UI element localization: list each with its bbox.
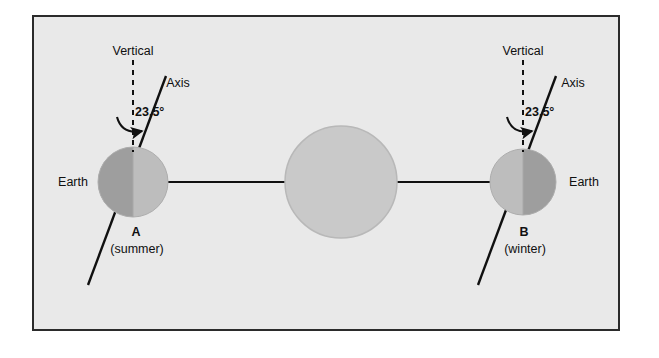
earth-b-season-label: (winter)	[504, 242, 546, 256]
earth-a-body-label: Earth	[58, 175, 88, 189]
earth-a-vertical-label: Vertical	[113, 44, 154, 58]
earth-a-angle-arrow	[117, 117, 142, 132]
earth-b-angle-arrow	[507, 117, 532, 132]
diagram-graphics	[0, 0, 659, 358]
earth-a-season-label: (summer)	[110, 242, 163, 256]
earth-b-axis-label: Axis	[561, 76, 585, 90]
earth-b-angle-label: 23.5°	[525, 105, 554, 119]
earth-a-dark-hemisphere	[96, 145, 133, 219]
earth-b-vertical-label: Vertical	[503, 44, 544, 58]
earth-a-angle-label: 23.5°	[135, 105, 164, 119]
sun-body	[285, 126, 397, 238]
earth-a-axis-label: Axis	[166, 76, 190, 90]
earth-b-body-label: Earth	[569, 175, 599, 189]
diagram-canvas: Vertical Axis 23.5° Earth A (summer) Ver…	[0, 0, 659, 358]
earth-b-dark-hemisphere	[523, 147, 558, 217]
earth-b-position-label: B	[519, 225, 528, 239]
earth-a-position-label: A	[131, 225, 140, 239]
